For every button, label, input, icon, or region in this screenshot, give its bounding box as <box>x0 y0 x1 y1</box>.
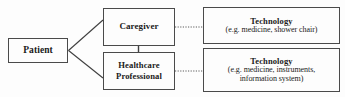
node-technology-caregiver[interactable]: Technology (e.g. medicine, shower chair) <box>203 7 340 44</box>
node-patient-title: Patient <box>23 45 53 55</box>
node-technology-professional-subtitle-line2: information system) <box>238 75 306 84</box>
node-healthcare-professional[interactable]: Healthcare Professional <box>103 52 175 90</box>
node-caregiver[interactable]: Caregiver <box>103 8 175 46</box>
node-caregiver-title: Caregiver <box>119 22 158 32</box>
connector-patient-to-caregiver <box>69 20 104 51</box>
node-technology-professional[interactable]: Technology (e.g. medicine, instruments, … <box>203 48 340 92</box>
diagram-canvas: Patient Caregiver Healthcare Professiona… <box>0 0 345 97</box>
node-healthcare-professional-title: Healthcare Professional <box>104 60 174 81</box>
node-technology-caregiver-subtitle: (e.g. medicine, shower chair) <box>224 26 320 35</box>
connector-patient-to-healthcare-professional <box>69 51 104 79</box>
node-patient[interactable]: Patient <box>8 38 68 63</box>
